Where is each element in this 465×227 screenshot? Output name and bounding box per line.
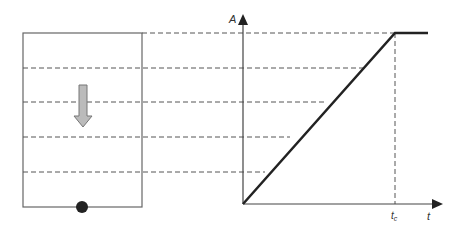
a-vs-t-line	[243, 33, 428, 204]
x-axis-arrow-icon	[432, 199, 443, 209]
outlet-dot	[76, 201, 88, 213]
y-axis-arrow-icon	[238, 14, 248, 25]
diagram: A t tc	[0, 0, 465, 227]
down-arrow-icon	[74, 85, 92, 127]
y-axis-label: A	[228, 13, 236, 25]
x-axis-label: t	[427, 210, 431, 222]
tc-label: tc	[391, 210, 398, 222]
axes	[238, 14, 443, 209]
